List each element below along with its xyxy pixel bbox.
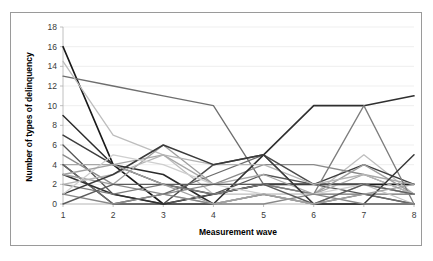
x-tick-label: 4 [211,210,216,220]
series-line-case-13 [63,145,414,194]
series-line-case-02 [63,76,414,194]
y-tick-label: 0 [52,199,57,209]
x-tick-label: 1 [61,210,66,220]
x-tick-label: 3 [161,210,166,220]
x-tick-labels-group: 12345678 [61,210,417,220]
x-tick-label: 2 [111,210,116,220]
x-tick-label: 6 [311,210,316,220]
y-tick-label: 12 [48,81,58,91]
x-tick-label: 5 [261,210,266,220]
y-tick-label: 16 [48,42,58,52]
y-tick-label: 6 [52,140,57,150]
y-tick-label: 10 [48,101,58,111]
y-tick-labels-group: 024681012141618 [48,22,58,209]
x-tick-label: 8 [412,210,417,220]
x-tick-label: 7 [361,210,366,220]
y-tick-label: 8 [52,120,57,130]
chart-canvas: 024681012141618 12345678 Number of types… [0,0,433,261]
x-axis-title: Measurement wave [199,227,277,237]
y-tick-label: 18 [48,22,58,32]
y-axis-title: Number of types of delinquency [24,52,34,182]
series-line-case-12 [63,96,414,204]
y-tick-label: 2 [52,179,57,189]
gridlines-group [63,27,414,204]
y-tick-label: 14 [48,61,58,71]
chart-figure: 024681012141618 12345678 Number of types… [0,0,433,261]
y-tick-label: 4 [52,160,57,170]
